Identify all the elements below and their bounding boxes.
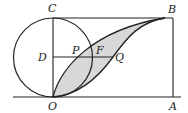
- geometry-figure: C B D P F Q O A: [0, 0, 188, 113]
- label-C: C: [48, 2, 57, 15]
- label-A: A: [168, 100, 177, 113]
- label-F: F: [95, 44, 104, 57]
- label-O: O: [48, 100, 57, 113]
- label-P: P: [71, 44, 80, 57]
- label-D: D: [37, 51, 47, 64]
- label-B: B: [167, 3, 176, 16]
- label-Q: Q: [115, 51, 124, 64]
